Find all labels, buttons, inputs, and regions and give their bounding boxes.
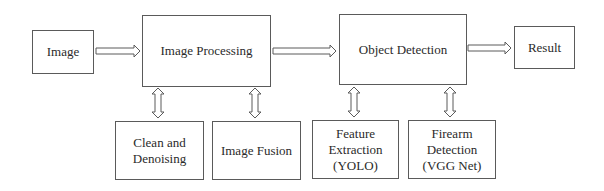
arrow-processing-to-detection — [273, 45, 336, 57]
node-feature-extraction: Feature Extraction (YOLO) — [312, 120, 399, 179]
node-firearm-detection: Firearm Detection (VGG Net) — [408, 120, 496, 179]
node-label: Image Processing — [160, 43, 252, 59]
double-arrow-processing-clean — [152, 88, 164, 118]
node-label: Image — [47, 44, 79, 60]
node-label: Firearm Detection (VGG Net) — [423, 126, 482, 174]
node-label: Feature Extraction (YOLO) — [328, 126, 382, 174]
node-image-fusion: Image Fusion — [212, 121, 301, 180]
node-object-detection: Object Detection — [339, 14, 467, 85]
node-label: Result — [528, 40, 561, 56]
double-arrow-processing-fusion — [249, 88, 261, 118]
arrow-detection-to-result — [468, 42, 511, 54]
node-label: Image Fusion — [221, 143, 292, 159]
node-label: Clean and Denoising — [133, 135, 186, 167]
double-arrow-detection-feature — [348, 87, 360, 117]
node-clean-denoising: Clean and Denoising — [115, 121, 204, 180]
node-label: Object Detection — [359, 42, 447, 58]
double-arrow-detection-firearm — [444, 87, 456, 117]
node-image-processing: Image Processing — [142, 15, 271, 87]
arrow-image-to-processing — [96, 45, 140, 57]
node-image: Image — [32, 30, 94, 74]
node-result: Result — [514, 26, 575, 69]
